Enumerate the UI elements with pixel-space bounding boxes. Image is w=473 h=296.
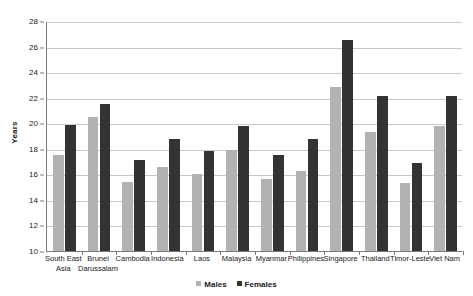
- bar-group: [82, 22, 117, 251]
- legend-item-males[interactable]: Males: [196, 280, 226, 289]
- bars-layer: [47, 22, 462, 251]
- bar-females: [377, 96, 388, 251]
- bar-group: [324, 22, 359, 251]
- y-axis-tick-label: 24: [29, 69, 38, 77]
- bar-females: [134, 160, 145, 251]
- bar-group: [428, 22, 463, 251]
- x-axis-category-labels: South East AsiaBrunei DarussalamCambodia…: [46, 254, 462, 278]
- bar-females: [342, 40, 353, 251]
- y-axis-tick-label: 16: [29, 171, 38, 179]
- bar-males: [365, 132, 376, 251]
- y-axis-tick-mark: [40, 47, 44, 48]
- bar-males: [330, 87, 341, 251]
- x-axis-label: Viet Nam: [420, 254, 470, 264]
- bar-males: [226, 150, 237, 251]
- legend-item-females[interactable]: Females: [237, 280, 277, 289]
- bar-group: [359, 22, 394, 251]
- bar-males: [192, 174, 203, 251]
- y-axis-tick-label: 20: [29, 120, 38, 128]
- bar-males: [296, 171, 307, 252]
- y-axis-tick-label: 10: [29, 248, 38, 256]
- y-axis-tick-mark: [40, 175, 44, 176]
- bar-females: [412, 163, 423, 251]
- bar-group: [255, 22, 290, 251]
- bar-males: [261, 179, 272, 251]
- bar-males: [88, 117, 99, 251]
- bar-males: [53, 155, 64, 251]
- y-axis-tick-mark: [40, 73, 44, 74]
- bar-females: [65, 125, 76, 252]
- y-axis-tick-mark: [40, 252, 44, 253]
- bar-group: [116, 22, 151, 251]
- bar-group: [151, 22, 186, 251]
- bar-group: [220, 22, 255, 251]
- bar-males: [434, 126, 445, 251]
- bar-females: [169, 139, 180, 251]
- bar-females: [446, 96, 457, 251]
- plot-area: [46, 22, 462, 252]
- bar-group: [47, 22, 82, 251]
- y-axis-tick-label: 12: [29, 222, 38, 230]
- bar-females: [273, 155, 284, 251]
- y-axis-tick-mark: [40, 149, 44, 150]
- bar-group: [394, 22, 429, 251]
- y-axis-tick-label: 22: [29, 95, 38, 103]
- bar-females: [238, 126, 249, 251]
- y-axis-tick-label: 26: [29, 44, 38, 52]
- legend-label: Males: [204, 280, 226, 289]
- bar-females: [100, 104, 111, 251]
- bar-group: [290, 22, 325, 251]
- bar-males: [400, 183, 411, 251]
- bar-males: [157, 167, 168, 251]
- legend-swatch-icon: [237, 281, 242, 286]
- y-axis-tick-mark: [40, 22, 44, 23]
- y-axis-tick-labels: 10121416182022242628: [0, 22, 44, 252]
- y-axis-tick-mark: [40, 98, 44, 99]
- y-axis-tick-mark: [40, 226, 44, 227]
- y-axis-tick-mark: [40, 124, 44, 125]
- y-axis-tick-label: 28: [29, 18, 38, 26]
- y-axis-tick-mark: [40, 200, 44, 201]
- bar-females: [204, 151, 215, 251]
- legend-label: Females: [245, 280, 277, 289]
- legend-swatch-icon: [196, 281, 201, 286]
- bar-females: [308, 139, 319, 251]
- y-axis-tick-label: 14: [29, 197, 38, 205]
- bar-chart: Years 10121416182022242628 South East As…: [0, 0, 473, 296]
- y-axis-tick-label: 18: [29, 146, 38, 154]
- bar-males: [122, 182, 133, 251]
- bar-group: [186, 22, 221, 251]
- chart-legend: MalesFemales: [0, 280, 473, 289]
